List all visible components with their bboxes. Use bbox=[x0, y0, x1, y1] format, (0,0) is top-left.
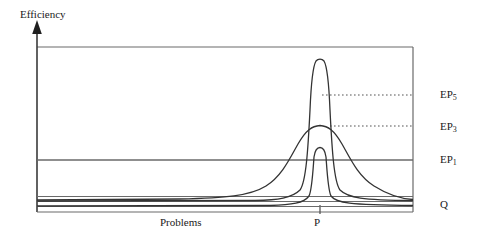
level-label-ep1-text: EP bbox=[440, 153, 453, 165]
efficiency-vs-problems-chart: Efficiency Problems P EP5 EP3 EP1 Q bbox=[0, 0, 484, 243]
level-label-ep5: EP5 bbox=[440, 88, 457, 104]
chart-canvas bbox=[0, 0, 484, 243]
level-label-ep5-text: EP bbox=[440, 88, 453, 100]
level-label-ep1-subscript: 1 bbox=[453, 158, 457, 167]
level-label-ep3: EP3 bbox=[440, 120, 457, 136]
x-axis-title: Problems bbox=[160, 216, 202, 228]
level-label-ep1: EP1 bbox=[440, 153, 457, 169]
level-label-q-text: Q bbox=[440, 198, 448, 210]
level-label-ep3-subscript: 3 bbox=[453, 125, 457, 134]
curve-tall-narrow-peak bbox=[37, 59, 413, 201]
level-label-ep5-subscript: 5 bbox=[453, 93, 457, 102]
level-label-q: Q bbox=[440, 198, 448, 214]
curve-broad-medium-peak bbox=[37, 126, 413, 201]
y-axis-title: Efficiency bbox=[20, 8, 66, 20]
level-label-ep3-text: EP bbox=[440, 120, 453, 132]
x-axis-tick-label-p: P bbox=[314, 216, 320, 228]
y-axis-arrowhead-icon bbox=[32, 20, 42, 34]
